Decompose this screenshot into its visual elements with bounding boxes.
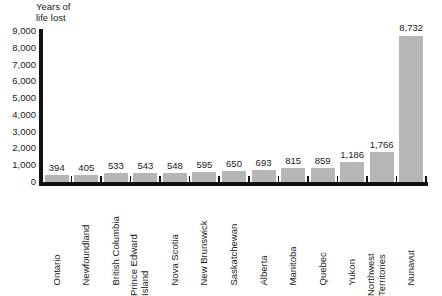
bar: [104, 173, 128, 182]
x-axis-tick: [218, 176, 220, 183]
bar: [74, 175, 98, 182]
x-axis-category-label: New Brunswick: [199, 202, 210, 286]
y-axis-tick-label: 4,000: [0, 110, 36, 120]
y-axis-line: [39, 29, 43, 184]
x-axis-tick: [396, 176, 398, 183]
y-axis-tick-label: 0: [0, 177, 36, 187]
x-axis-category-label: Alberta: [258, 202, 269, 286]
y-axis-tick-label: 1,000: [0, 160, 36, 170]
x-axis-category-label: Newfoundland: [81, 202, 92, 286]
y-axis-title: Years of life lost: [36, 1, 71, 23]
x-axis-tick: [366, 176, 368, 183]
x-axis-category-label: Saskatchewan: [229, 202, 240, 286]
x-axis-category-label: British Columbia: [110, 202, 121, 286]
x-axis-tick: [307, 176, 309, 183]
y-axis-tick-label: 9,000: [0, 26, 36, 36]
x-axis-tick: [425, 176, 427, 183]
x-axis-tick: [337, 176, 339, 183]
y-axis-tick-labels: 9,0008,0007,0006,0005,0004,0003,0002,000…: [0, 0, 36, 277]
bar: [311, 168, 335, 182]
bar-value-label: 1,766: [361, 140, 403, 150]
bar: [45, 175, 69, 182]
bar: [340, 162, 364, 182]
y-axis-tick-label: 5,000: [0, 93, 36, 103]
y-axis-tick-label: 8,000: [0, 43, 36, 53]
y-axis-tick-label: 3,000: [0, 127, 36, 137]
x-axis-category-label: Northwest Territories: [366, 212, 387, 296]
bar: [133, 173, 157, 182]
bar-value-label: 8,732: [390, 23, 432, 33]
y-axis-tick-label: 2,000: [0, 143, 36, 153]
x-axis-category-label: Ontario: [51, 202, 62, 286]
bar: [222, 171, 246, 182]
bar: [252, 170, 276, 182]
y-axis-tick-label: 6,000: [0, 76, 36, 86]
x-axis-category-label: Quebec: [317, 202, 328, 286]
x-axis-tick: [159, 176, 161, 183]
bar: [192, 172, 216, 182]
bar: [399, 36, 423, 183]
x-axis-tick: [130, 176, 132, 183]
x-axis-category-label: Yukon: [347, 202, 358, 286]
bar: [281, 168, 305, 182]
x-axis-tick: [278, 176, 280, 183]
x-axis-tick: [71, 176, 73, 183]
y-axis-tick-label: 7,000: [0, 60, 36, 70]
x-axis-line: [39, 182, 428, 186]
x-axis-category-label: Manitoba: [288, 202, 299, 286]
bar: [370, 152, 394, 182]
bar: [163, 173, 187, 182]
x-axis-category-label: Nunavut: [406, 202, 417, 286]
x-axis-tick: [248, 176, 250, 183]
x-axis-tick: [189, 176, 191, 183]
x-axis-category-label: Prince Edward Island: [129, 212, 150, 296]
x-axis-category-label: Nova Scotia: [169, 202, 180, 286]
x-axis-tick: [100, 176, 102, 183]
bar-value-label: 1,186: [331, 150, 373, 160]
